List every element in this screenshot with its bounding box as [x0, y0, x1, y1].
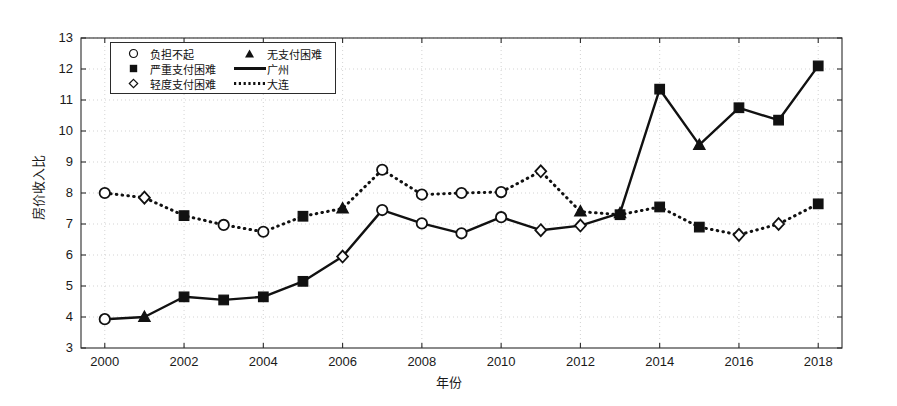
legend-label: 广州 — [267, 61, 289, 77]
data-point-marker — [655, 84, 665, 94]
legend-label: 无支付困难 — [267, 46, 322, 62]
legend-label: 大连 — [267, 76, 289, 92]
chart-figure: 345678910111213 200020022004200620082010… — [0, 0, 897, 406]
data-point-marker — [496, 212, 506, 222]
y-tick-label: 7 — [47, 216, 73, 231]
data-point-marker — [377, 165, 387, 175]
y-tick-label: 10 — [47, 123, 73, 138]
y-tick-label: 3 — [47, 340, 73, 355]
data-point-marker — [695, 222, 705, 232]
data-point-marker — [298, 211, 308, 221]
data-point-marker — [456, 188, 466, 198]
data-point-marker — [655, 202, 665, 212]
legend-entry-severe-difficulty: 严重支付困难 — [116, 61, 233, 77]
square-icon — [116, 63, 150, 74]
y-axis-title: 房价收入比 — [28, 133, 47, 243]
x-tick-label: 2018 — [790, 354, 846, 369]
data-point-marker — [535, 165, 546, 177]
data-point-marker — [377, 205, 387, 215]
data-point-marker — [774, 115, 784, 125]
legend-label: 负担不起 — [150, 46, 194, 62]
circle-icon — [116, 48, 150, 59]
x-tick-label: 2010 — [473, 354, 529, 369]
data-point-marker — [813, 199, 823, 209]
x-tick-label: 2014 — [632, 354, 688, 369]
x-tick-label: 2004 — [235, 354, 291, 369]
legend-label: 严重支付困难 — [150, 61, 216, 77]
legend-entry-dalian: 大连 — [233, 76, 330, 92]
y-tick-label: 6 — [47, 247, 73, 262]
data-point-marker — [219, 295, 229, 305]
y-tick-label: 11 — [47, 92, 73, 107]
data-point-marker — [615, 210, 625, 220]
data-point-marker — [259, 292, 269, 302]
data-point-marker — [417, 218, 427, 228]
x-tick-label: 2000 — [77, 354, 133, 369]
y-tick-label: 5 — [47, 278, 73, 293]
dotted-line-icon — [233, 78, 267, 89]
x-tick-label: 2006 — [315, 354, 371, 369]
y-tick-label: 8 — [47, 185, 73, 200]
legend-entry-no-difficulty: 无支付困难 — [233, 46, 330, 62]
data-point-marker — [733, 229, 744, 241]
data-point-marker — [179, 211, 189, 221]
data-point-marker — [813, 61, 823, 71]
data-point-marker — [417, 189, 427, 199]
legend-entry-mild-difficulty: 轻度支付困难 — [116, 76, 233, 92]
y-tick-label: 4 — [47, 309, 73, 324]
data-point-marker — [773, 218, 784, 230]
data-point-marker — [179, 292, 189, 302]
data-point-marker — [298, 277, 308, 287]
data-point-marker — [496, 187, 506, 197]
legend-label: 轻度支付困难 — [150, 76, 216, 92]
data-point-marker — [535, 224, 546, 236]
data-point-marker — [139, 192, 150, 204]
legend-row: 严重支付困难 广州 — [116, 61, 330, 76]
y-tick-label: 12 — [47, 61, 73, 76]
legend-row: 负担不起 无支付困难 — [116, 46, 330, 61]
legend-entry-unaffordable: 负担不起 — [116, 46, 233, 62]
x-tick-label: 2012 — [552, 354, 608, 369]
data-point-marker — [258, 227, 268, 237]
x-tick-label: 2008 — [394, 354, 450, 369]
series-markers — [100, 61, 823, 324]
legend-row: 轻度支付困难 大连 — [116, 76, 330, 91]
data-point-marker — [100, 314, 110, 324]
chart-legend: 负担不起 无支付困难 严重支付困难 广州 — [110, 42, 336, 94]
x-tick-label: 2016 — [711, 354, 767, 369]
solid-line-icon — [233, 63, 267, 74]
x-axis-title: 年份 — [0, 372, 897, 391]
data-point-marker — [337, 203, 348, 213]
x-tick-label: 2002 — [156, 354, 212, 369]
data-point-marker — [100, 188, 110, 198]
triangle-icon — [233, 48, 267, 59]
y-tick-label: 13 — [47, 30, 73, 45]
data-point-marker — [734, 103, 744, 113]
y-tick-label: 9 — [47, 154, 73, 169]
legend-entry-guangzhou: 广州 — [233, 61, 330, 77]
data-point-marker — [218, 220, 228, 230]
data-point-marker — [575, 220, 586, 232]
diamond-icon — [116, 78, 150, 89]
data-point-marker — [456, 228, 466, 238]
